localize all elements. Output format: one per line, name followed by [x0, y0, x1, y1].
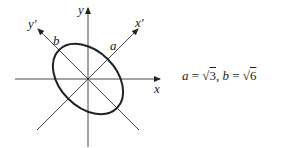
semi-axis-values: a = √3, b = √6	[182, 68, 256, 84]
b-equals: = √	[229, 68, 250, 83]
a-equals: = √	[189, 68, 210, 83]
b-value: 6	[250, 68, 257, 83]
semi-axis-a-label: a	[110, 38, 117, 53]
y-axis-label: y	[76, 2, 84, 17]
x-prime-label: x′	[134, 15, 144, 30]
x-axis-label: x	[153, 81, 160, 96]
semi-axis-b-label: b	[53, 33, 60, 48]
y-prime-label: y′	[26, 16, 37, 31]
